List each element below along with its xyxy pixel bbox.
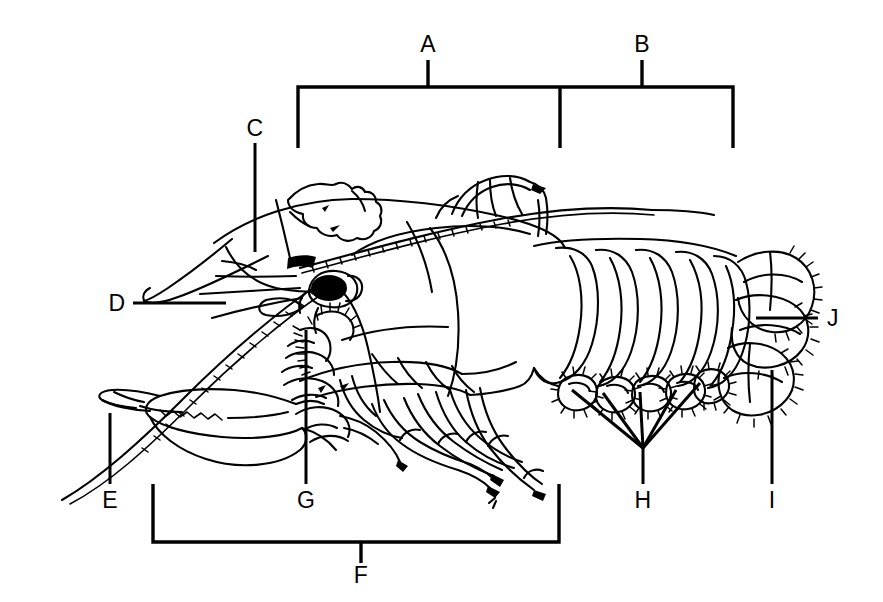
tail-fan-setae bbox=[710, 246, 822, 427]
callout-label-d[interactable]: D bbox=[109, 292, 126, 315]
figure-root: A B C D E F G H I J bbox=[0, 0, 883, 602]
walking-legs-group bbox=[340, 354, 546, 508]
bottom-bracket bbox=[153, 484, 559, 563]
callout-label-c[interactable]: C bbox=[247, 117, 264, 140]
callout-label-b[interactable]: B bbox=[634, 33, 650, 56]
crayfish-illustration bbox=[62, 176, 822, 508]
callout-label-i[interactable]: I bbox=[769, 489, 776, 512]
callout-label-h[interactable]: H bbox=[635, 489, 652, 512]
callout-label-f[interactable]: F bbox=[354, 564, 368, 587]
cheliped-group bbox=[99, 389, 336, 465]
callout-label-g[interactable]: G bbox=[297, 489, 315, 512]
callout-label-j[interactable]: J bbox=[827, 307, 839, 330]
tail-fan-group bbox=[710, 246, 822, 427]
top-bracket bbox=[298, 60, 733, 148]
crayfish-diagram-canvas bbox=[0, 0, 883, 602]
callout-label-a[interactable]: A bbox=[420, 33, 436, 56]
callout-label-e[interactable]: E bbox=[102, 489, 118, 512]
ventral-lines-group bbox=[462, 362, 558, 395]
callout-layer bbox=[110, 60, 818, 563]
abdomen-group bbox=[534, 239, 749, 388]
